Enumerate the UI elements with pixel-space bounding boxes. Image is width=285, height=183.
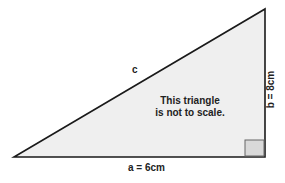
triangle — [14, 9, 265, 157]
hypotenuse-label: c — [132, 64, 138, 75]
scale-note-line2: is not to scale. — [130, 107, 250, 119]
triangle-diagram — [0, 0, 285, 183]
scale-note-line1: This triangle — [130, 95, 250, 107]
base-label: a = 6cm — [128, 162, 165, 173]
right-angle-marker — [245, 140, 264, 156]
height-label: b = 8cm — [265, 71, 276, 109]
scale-note: This triangle is not to scale. — [130, 95, 250, 119]
